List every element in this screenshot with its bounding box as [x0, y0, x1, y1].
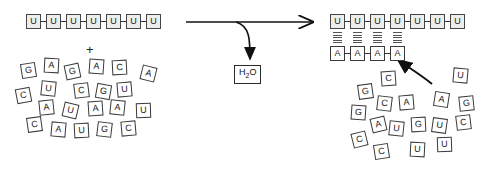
nucleotide-tile[interactable]: U	[431, 117, 448, 134]
nucleotide-tile[interactable]: G	[350, 104, 366, 120]
hydrogen-bond	[353, 32, 362, 43]
nucleotide-tile[interactable]: U	[106, 14, 121, 29]
nucleotide-tile[interactable]: U	[74, 123, 90, 139]
nucleotide-tile[interactable]: C	[350, 130, 368, 148]
nucleotide-tile[interactable]: U	[40, 80, 56, 96]
nucleotide-tile[interactable]: A	[330, 46, 345, 61]
hydrogen-bond	[333, 32, 342, 43]
nucleotide-tile[interactable]: C	[455, 114, 472, 131]
nucleotide-tile[interactable]: U	[410, 142, 426, 158]
nucleotide-tile[interactable]: G	[458, 95, 474, 111]
nucleotide-tile[interactable]: U	[452, 67, 468, 83]
diagram-canvas: U U U U U U U + G A G A C A C U C G U A …	[0, 0, 493, 171]
nucleotide-tile[interactable]: A	[88, 58, 104, 74]
nucleotide-tile[interactable]: A	[370, 116, 388, 134]
nucleotide-tile[interactable]: A	[350, 46, 365, 61]
nucleotide-tile[interactable]: G	[64, 63, 82, 81]
nucleotide-tile[interactable]: U	[86, 14, 101, 29]
nucleotide-tile[interactable]: U	[370, 14, 385, 29]
nucleotide-tile[interactable]: C	[380, 70, 396, 86]
nucleotide-tile[interactable]: C	[26, 116, 43, 133]
nucleotide-tile[interactable]: U	[146, 14, 161, 29]
nucleotide-tile[interactable]: U	[350, 14, 365, 29]
nucleotide-tile[interactable]: C	[73, 82, 90, 99]
nucleotide-tile[interactable]: A	[50, 121, 66, 137]
nucleotide-tile[interactable]: G	[96, 121, 113, 138]
nucleotide-tile[interactable]: A	[139, 64, 157, 82]
nucleotide-tile[interactable]: A	[370, 46, 385, 61]
nucleotide-tile[interactable]: U	[126, 14, 141, 29]
byproduct-label: H2O	[234, 65, 261, 84]
nucleotide-tile[interactable]: U	[437, 137, 453, 153]
nucleotide-tile[interactable]: U	[410, 14, 425, 29]
nucleotide-tile[interactable]: G	[357, 83, 374, 100]
nucleotide-tile[interactable]: U	[26, 14, 41, 29]
nucleotide-tile[interactable]: G	[20, 62, 37, 79]
nucleotide-tile[interactable]: A	[38, 99, 54, 115]
nucleotide-tile[interactable]: A	[109, 99, 125, 115]
nucleotide-tile[interactable]: A	[398, 94, 414, 110]
nucleotide-tile[interactable]: C	[376, 95, 393, 112]
nucleotide-tile[interactable]: U	[46, 14, 61, 29]
nucleotide-tile[interactable]: U	[450, 14, 465, 29]
nucleotide-tile[interactable]: A	[390, 46, 405, 61]
plus-symbol: +	[86, 43, 94, 56]
nucleotide-tile[interactable]: U	[388, 120, 404, 136]
nucleotide-tile[interactable]: U	[330, 14, 345, 29]
incoming-nucleotide-arrow	[398, 60, 432, 84]
byproduct-o: O	[249, 67, 256, 77]
nucleotide-tile[interactable]: C	[15, 87, 33, 105]
nucleotide-tile[interactable]: U	[430, 14, 445, 29]
hydrogen-bond	[393, 32, 402, 43]
hydrogen-bond	[373, 32, 382, 43]
nucleotide-tile[interactable]: U	[116, 81, 132, 97]
nucleotide-tile[interactable]: G	[95, 83, 112, 100]
nucleotide-tile[interactable]: A	[44, 58, 60, 74]
nucleotide-tile[interactable]: U	[66, 14, 81, 29]
nucleotide-tile[interactable]: U	[136, 103, 152, 119]
nucleotide-tile[interactable]: A	[433, 91, 450, 108]
nucleotide-tile[interactable]: G	[411, 117, 427, 133]
byproduct-branch-arrow	[236, 22, 250, 59]
nucleotide-tile[interactable]: A	[87, 100, 103, 116]
nucleotide-tile[interactable]: C	[373, 143, 390, 160]
nucleotide-tile[interactable]: U	[390, 14, 405, 29]
nucleotide-tile[interactable]: U	[62, 102, 80, 120]
nucleotide-tile[interactable]: C	[120, 120, 136, 136]
nucleotide-tile[interactable]: C	[112, 60, 128, 76]
